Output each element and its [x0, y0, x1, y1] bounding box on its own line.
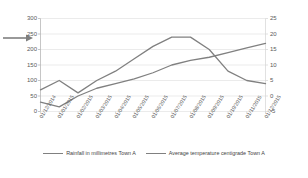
legend-item-rainfall[interactable]: Rainfall in millimetres Town A [43, 150, 136, 156]
legend-item-temperature[interactable]: Average temperature centigrade Town A [146, 150, 265, 156]
y-axis-tick-left: 300 [14, 15, 37, 22]
legend-label-rainfall: Rainfall in millimetres Town A [66, 150, 136, 156]
y-axis-tick-left: 50 [14, 93, 37, 100]
y-axis-tick-left: 250 [14, 31, 37, 38]
y-axis-tick-right: 25 [270, 15, 292, 22]
y-axis-tick-left: 150 [14, 62, 37, 69]
y-axis-tick-right: 20 [270, 31, 292, 38]
y-axis-tick-left: 200 [14, 46, 37, 53]
legend-label-temperature: Average temperature centigrade Town A [169, 150, 265, 156]
y-axis-tick-right: 15 [270, 46, 292, 53]
legend-line-icon-temperature [146, 153, 166, 154]
chart-legend: Rainfall in millimetres Town A Average t… [0, 150, 308, 156]
y-axis-tick-right: 5 [270, 77, 292, 84]
y-axis-tick-left: 0 [14, 108, 37, 115]
y-axis-tick-left: 100 [14, 77, 37, 84]
legend-line-icon-rainfall [43, 153, 63, 154]
y-axis-tick-right: 10 [270, 62, 292, 69]
chart-container: Rainfall in millimetres Town A Average t… [0, 0, 308, 178]
